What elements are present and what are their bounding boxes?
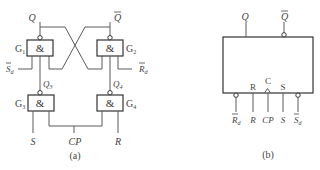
svg-text:Rd: Rd (231, 115, 242, 126)
g3-and-symbol: & (36, 97, 45, 109)
s-label: S (31, 136, 36, 147)
b-inner-c-label: C (265, 76, 271, 86)
g4-label: G4 (126, 98, 136, 110)
b-inner-s-label: S (280, 82, 285, 92)
b-r-label: R (249, 115, 256, 125)
g2-and-symbol: & (106, 42, 115, 54)
b-sd-bar-label: Sd (294, 114, 303, 126)
svg-text:Sd: Sd (6, 64, 15, 75)
svg-text:Q: Q (281, 11, 289, 22)
svg-text:Q: Q (114, 12, 122, 23)
rs-flipflop-figure: & G1 & G2 & G3 & G4 Q (0, 0, 320, 170)
cp-label: CP (69, 136, 82, 147)
diagram-b: Q Q R C S Rd R CP S Sd (b) (223, 11, 313, 161)
g4-inversion-bubble (108, 91, 112, 95)
q3-label: Q3 (43, 79, 53, 90)
b-q-label: Q (241, 11, 249, 22)
b-inner-r-label: R (250, 82, 256, 92)
b-cp-label: CP (262, 115, 274, 125)
g1-label: G1 (15, 43, 25, 55)
g4-and-symbol: & (106, 97, 115, 109)
b-q-bar-bubble (282, 33, 286, 37)
g3-inversion-bubble (38, 91, 42, 95)
svg-text:Sd: Sd (294, 115, 303, 126)
rd-bar-label: Rd (138, 63, 149, 75)
b-rd-bar-bubble (234, 93, 238, 97)
b-s-label: S (281, 115, 286, 125)
cp-net-wire (49, 111, 102, 126)
diagram-a: & G1 & G2 & G3 & G4 Q (6, 12, 149, 162)
caption-a: (a) (69, 150, 80, 162)
r-label: R (114, 136, 121, 147)
rd-bar-wire (118, 56, 132, 69)
b-sd-bar-bubble (296, 93, 300, 97)
sd-bar-wire (18, 56, 32, 69)
b-rd-bar-label: Rd (231, 114, 242, 126)
b-q-bar-label: Q (281, 11, 289, 22)
q-label: Q (28, 12, 36, 23)
g3-label: G3 (15, 98, 25, 110)
q4-label: Q4 (113, 79, 123, 90)
g2-label: G2 (126, 43, 136, 55)
sd-bar-label: Sd (6, 63, 15, 75)
g2-inversion-bubble (108, 36, 112, 40)
g1-and-symbol: & (36, 42, 45, 54)
caption-b: (b) (262, 149, 274, 161)
q-bar-label: Q (114, 12, 122, 23)
g1-inversion-bubble (38, 36, 42, 40)
svg-text:Rd: Rd (138, 64, 149, 75)
